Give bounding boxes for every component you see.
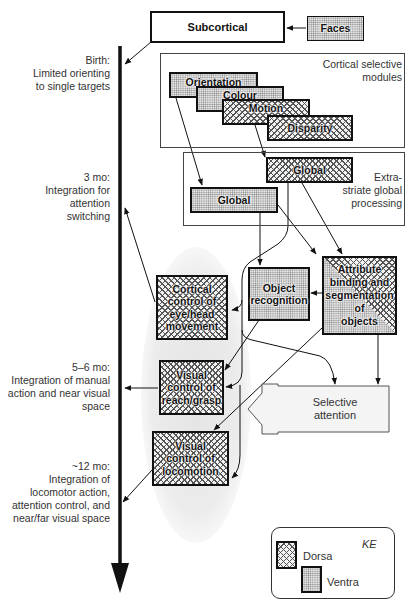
stage-text: action and near visual <box>0 387 110 400</box>
region-label-line: Cortical selective <box>323 58 402 71</box>
node-label: Object <box>263 282 296 295</box>
node-subcortical: Subcortical <box>150 11 285 43</box>
region-label-line: striate global <box>342 184 402 197</box>
node-faces: Faces <box>307 16 364 41</box>
stage-age: 3 mo: <box>0 171 110 184</box>
node-label: Global <box>293 164 326 177</box>
node-label: eye/head <box>170 308 215 321</box>
node-visual-control-reach-grasp: Visual control of reach/grasp <box>159 360 224 415</box>
node-label: control of <box>166 452 214 465</box>
node-cortical-control-eye-head: Cortical control of eye/head movement <box>156 275 228 340</box>
node-selective-attention: Selective attention <box>290 396 380 422</box>
node-label: control of <box>167 381 215 394</box>
stage-age: 5–6 mo: <box>0 361 110 374</box>
node-label: Faces <box>321 22 351 35</box>
node-label: Visual <box>176 369 207 382</box>
node-label: Disparity <box>288 122 333 135</box>
timeline-stage-12mo: ~12 mo: Integration of locomotor action,… <box>0 460 110 525</box>
stage-text: Integration of <box>0 473 110 486</box>
node-label: Subcortical <box>188 21 248 34</box>
timeline-stage-5-6mo: 5–6 mo: Integration of manual action and… <box>0 361 110 413</box>
node-attribute-binding: Attribute binding and segmentation of ob… <box>322 256 397 335</box>
node-label: movement <box>166 320 219 333</box>
legend: KE Dorsa Ventra <box>271 527 395 599</box>
node-label: locomotion <box>162 465 219 478</box>
node-label: Visual <box>175 440 206 453</box>
node-label: objects <box>341 315 378 328</box>
stage-text: switching <box>0 210 110 223</box>
attribute-text: Attribute binding and segmentation of ob… <box>324 258 395 333</box>
timeline-arrowhead <box>111 563 129 593</box>
node-label: control of <box>168 295 216 308</box>
stage-text: Limited orienting <box>0 67 110 80</box>
node-visual-control-locomotion: Visual control of locomotion <box>152 431 229 486</box>
stage-text: locomotor action, <box>0 486 110 499</box>
node-label: Selective <box>290 396 380 409</box>
stage-text: attention control, and <box>0 499 110 512</box>
node-label: segmentation <box>325 289 393 302</box>
stage-text: to single targets <box>0 80 110 93</box>
node-label: binding and <box>330 276 390 289</box>
node-label: Cortical <box>172 283 211 296</box>
legend-tag: KE <box>362 538 377 550</box>
timeline-stage-birth: Birth: Limited orienting to single targe… <box>0 54 110 93</box>
timeline-stage-3mo: 3 mo: Integration for attention switchin… <box>0 171 110 223</box>
node-label: reach/grasp <box>162 394 222 407</box>
stage-text: near/far visual space <box>0 512 110 525</box>
stage-text: Integration for <box>0 184 110 197</box>
stage-text: attention <box>0 197 110 210</box>
region-label-line: processing <box>342 197 402 210</box>
node-object-recognition: Object recognition <box>248 267 310 321</box>
region-label-cortical-modules: Cortical selective modules <box>323 58 402 84</box>
legend-swatch-dorsal <box>276 541 297 569</box>
node-disparity: Disparity <box>267 115 353 141</box>
legend-label-dorsal: Dorsa <box>303 550 332 562</box>
legend-label-ventral: Ventra <box>327 576 359 588</box>
node-label: of <box>355 302 365 315</box>
node-label: attention <box>290 409 380 422</box>
legend-swatch-ventral <box>301 566 322 593</box>
node-label: Attribute <box>338 263 382 276</box>
node-label: Motion <box>249 102 283 115</box>
stage-text: Integration of manual <box>0 374 110 387</box>
node-global-dorsal: Global <box>266 157 353 183</box>
stage-text: space <box>0 400 110 413</box>
stage-age: Birth: <box>0 54 110 67</box>
node-global-ventral: Global <box>190 187 278 213</box>
region-label-line: modules <box>323 71 402 84</box>
stage-age: ~12 mo: <box>0 460 110 473</box>
node-label: Global <box>218 194 251 207</box>
node-label: recognition <box>250 294 307 307</box>
